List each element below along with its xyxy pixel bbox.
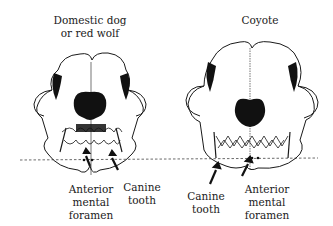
- label-line: tooth: [112, 194, 172, 207]
- label-line: tooth: [176, 203, 236, 216]
- dog-nasal-opening: [74, 92, 107, 120]
- label-line: foramen: [56, 209, 126, 222]
- coyote-canine-tooth-label: Canine tooth: [176, 190, 236, 216]
- coyote-skull-shading: [206, 62, 297, 127]
- label-line: Canine: [176, 190, 236, 203]
- coyote-anterior-mental-foramen-label: Anterior mental foramen: [232, 183, 302, 222]
- label-line: mental: [232, 196, 302, 209]
- coyote-nasal-opening: [235, 99, 265, 127]
- dog-canine-tooth-label: Canine tooth: [112, 181, 172, 207]
- label-line: Canine: [112, 181, 172, 194]
- coyote-pointer-arrows: [210, 157, 252, 184]
- reference-dashed-line: [20, 158, 318, 160]
- label-line: Anterior: [232, 183, 302, 196]
- label-line: foramen: [232, 209, 302, 222]
